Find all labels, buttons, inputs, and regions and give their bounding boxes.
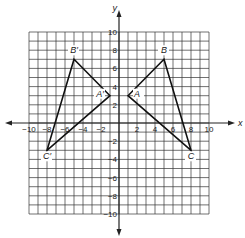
x-axis-label: x <box>237 118 243 128</box>
y-tick-label: 2 <box>113 101 118 110</box>
y-tick-label: −8 <box>108 192 118 201</box>
x-tick-label: 2 <box>135 125 140 134</box>
y-tick-label: −2 <box>108 137 118 146</box>
vertex-label: B′ <box>70 45 78 55</box>
y-tick-label: 10 <box>108 28 117 37</box>
y-axis-up-arrow-icon <box>117 10 122 17</box>
x-tick-label: 10 <box>205 125 214 134</box>
y-axis-down-arrow-icon <box>117 229 122 236</box>
coordinate-grid-figure: −10−8−6−4−2246810108642−2−4−6−8−10 ABCA′… <box>0 0 245 238</box>
y-tick-label: −4 <box>108 155 118 164</box>
x-axis-right-arrow-icon <box>228 121 235 126</box>
y-axis-label: y <box>112 3 118 13</box>
y-tick-label: −10 <box>103 210 117 219</box>
x-tick-label: 8 <box>189 125 194 134</box>
y-tick-label: 6 <box>113 64 118 73</box>
vertex-label: C′ <box>43 151 51 161</box>
vertex-label: B <box>161 45 167 55</box>
y-tick-label: 8 <box>113 46 118 55</box>
vertex-label: C <box>188 151 195 161</box>
vertex-label: A′ <box>95 89 104 99</box>
y-tick-label: 4 <box>113 83 118 92</box>
axes <box>5 10 235 236</box>
coordinate-plane: −10−8−6−4−2246810108642−2−4−6−8−10 ABCA′… <box>0 0 245 238</box>
x-axis-left-arrow-icon <box>5 121 12 126</box>
x-tick-label: −2 <box>96 125 106 134</box>
x-tick-label: −4 <box>78 125 88 134</box>
x-tick-label: 4 <box>153 125 158 134</box>
vertex-label: A <box>133 89 140 99</box>
y-tick-label: −6 <box>108 174 118 183</box>
x-tick-label: −8 <box>42 125 52 134</box>
x-tick-label: −6 <box>60 125 70 134</box>
x-tick-label: −10 <box>22 125 36 134</box>
